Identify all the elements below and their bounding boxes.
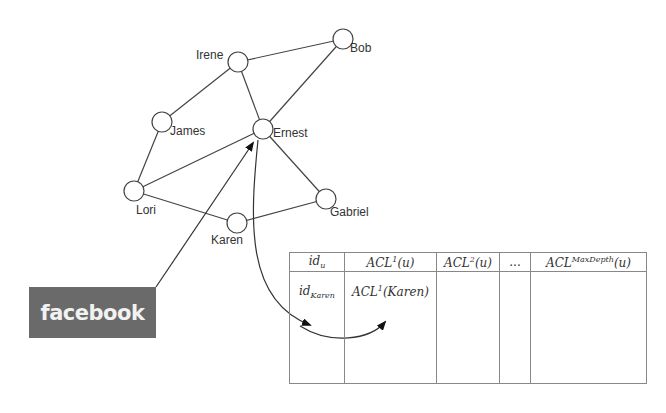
- label-james: James: [170, 124, 205, 138]
- node-ernest[interactable]: [253, 119, 273, 139]
- cell-arg: (Karen): [383, 285, 429, 299]
- header-sub: u: [320, 261, 325, 270]
- cell-sub: Karen: [311, 291, 335, 300]
- facebook-logo-box: facebook: [29, 287, 156, 338]
- label-bob: Bob: [350, 41, 371, 55]
- header-sup: MaxDepth: [572, 255, 614, 264]
- acl-table: idu ACL1(u) ACL2(u) ... ACLMaxDepth(u) i…: [289, 252, 647, 384]
- node-irene[interactable]: [228, 52, 248, 72]
- header-text: ACL: [546, 256, 572, 270]
- cell-text: id: [299, 284, 311, 298]
- node-james[interactable]: [152, 112, 172, 132]
- node-karen[interactable]: [227, 213, 247, 233]
- cell-acl1-karen: ACL1(Karen): [345, 272, 437, 384]
- header-text: id: [309, 254, 321, 268]
- header-text: ACL: [444, 256, 470, 270]
- cell-empty: [500, 272, 531, 384]
- graph-nodes: [124, 29, 353, 233]
- header-ellipsis: ...: [500, 253, 531, 272]
- table-header-row: idu ACL1(u) ACL2(u) ... ACLMaxDepth(u): [290, 253, 647, 272]
- header-text: ...: [509, 255, 520, 269]
- label-karen: Karen: [211, 233, 243, 247]
- label-gabriel: Gabriel: [330, 205, 369, 219]
- header-arg: (u): [475, 256, 492, 270]
- node-lori[interactable]: [124, 181, 144, 201]
- header-acl-maxdepth: ACLMaxDepth(u): [531, 253, 647, 272]
- label-ernest: Ernest: [273, 126, 308, 140]
- facebook-logo-text: facebook: [41, 301, 145, 325]
- cell-empty: [437, 272, 500, 384]
- label-lori: Lori: [136, 203, 156, 217]
- header-arg: (u): [397, 256, 414, 270]
- cell-empty: [531, 272, 647, 384]
- cell-id-karen: idKaren: [290, 272, 345, 384]
- header-arg: (u): [614, 256, 631, 270]
- header-text: ACL: [366, 256, 392, 270]
- header-acl1: ACL1(u): [345, 253, 437, 272]
- label-irene: Irene: [196, 48, 223, 62]
- table-row: idKaren ACL1(Karen): [290, 272, 647, 384]
- header-acl2: ACL2(u): [437, 253, 500, 272]
- header-id-u: idu: [290, 253, 345, 272]
- cell-text: ACL: [352, 285, 378, 299]
